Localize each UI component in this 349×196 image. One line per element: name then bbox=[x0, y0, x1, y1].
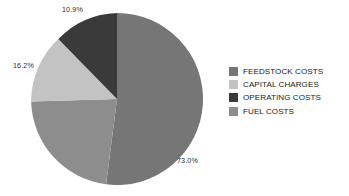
legend-item-fuel-costs: FUEL COSTS bbox=[229, 105, 347, 117]
legend-item-feedstock-costs: FEEDSTOCK COSTS bbox=[229, 66, 347, 78]
legend-swatch-icon-feedstock-costs bbox=[229, 67, 238, 76]
legend-item-operating-costs: OPERATING COSTS bbox=[229, 92, 347, 104]
data-label-feedstock-costs: 73.0% bbox=[177, 156, 198, 165]
data-label-capital-charges: 16.2% bbox=[13, 61, 34, 70]
chart-legend: FEEDSTOCK COSTS CAPITAL CHARGES OPERATIN… bbox=[229, 66, 347, 118]
pie-chart-figure: 10.9% 16.2% 73.0% FEEDSTOCK COSTS CAPITA… bbox=[0, 0, 349, 196]
data-label-operating-costs: 10.9% bbox=[62, 5, 83, 14]
legend-label-operating-costs: OPERATING COSTS bbox=[243, 93, 321, 102]
legend-swatch-icon-operating-costs bbox=[229, 93, 238, 102]
pie-slice-fuel-costs bbox=[31, 99, 117, 184]
legend-swatch-icon-capital-charges bbox=[229, 80, 238, 89]
legend-item-capital-charges: CAPITAL CHARGES bbox=[229, 79, 347, 91]
legend-label-feedstock-costs: FEEDSTOCK COSTS bbox=[243, 67, 323, 76]
legend-label-fuel-costs: FUEL COSTS bbox=[243, 107, 294, 116]
legend-label-capital-charges: CAPITAL CHARGES bbox=[243, 80, 319, 89]
legend-swatch-icon-fuel-costs bbox=[229, 107, 238, 116]
